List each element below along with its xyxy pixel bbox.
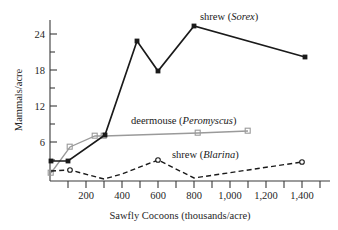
series-label-sorex-scientific: Sorex: [231, 11, 255, 22]
series-label-peromyscus-close: ): [233, 115, 237, 127]
series-blarina: [51, 158, 304, 179]
series-label-sorex-common: shrew (: [200, 11, 232, 23]
chart-figure: 24 18 12 6 Mammals/acre 200: [0, 0, 338, 230]
x-tick-label-600: 600: [150, 190, 166, 201]
series-blarina-line: [51, 160, 302, 179]
data-point: [192, 24, 197, 29]
y-tick-label-24: 24: [35, 29, 46, 40]
series-label-blarina-common: shrew (: [172, 149, 204, 161]
series-label-blarina-close: ): [235, 149, 239, 161]
x-tick-label-1200: 1,200: [254, 190, 278, 201]
series-label-sorex-close: ): [255, 11, 259, 23]
data-point: [303, 55, 308, 60]
x-tick-label-1400: 1,400: [290, 190, 314, 201]
data-point: [49, 159, 54, 164]
y-tick-labels: 24 18 12 6: [35, 29, 46, 148]
x-tick-labels: 200 400 600 800 1,000 1,200 1,400: [78, 190, 314, 201]
y-ticks: [50, 34, 57, 160]
y-tick-label-6: 6: [40, 137, 45, 148]
x-tick-label-200: 200: [78, 190, 94, 201]
data-point: [103, 133, 108, 138]
series-label-peromyscus-scientific: Peromyscus: [182, 115, 233, 126]
data-point: [66, 159, 71, 164]
series-label-peromyscus: deermouse (Peromyscus): [131, 115, 237, 127]
x-ticks: [68, 181, 320, 188]
data-point: [68, 168, 73, 173]
data-point: [300, 160, 305, 165]
series-label-blarina-scientific: Blarina: [203, 149, 235, 160]
data-point: [156, 158, 161, 163]
x-axis-title: Sawfly Cocoons (thousands/acre): [109, 210, 251, 222]
x-tick-label-1000: 1,000: [218, 190, 242, 201]
series-sorex-line: [51, 26, 305, 161]
y-tick-label-12: 12: [35, 101, 46, 112]
data-point: [135, 39, 140, 44]
series-label-sorex: shrew (Sorex): [200, 11, 259, 23]
series-sorex: [49, 24, 308, 164]
y-axis-title: Mammals/acre: [13, 68, 24, 131]
series-label-peromyscus-common: deermouse (: [131, 115, 183, 127]
series-sorex-markers: [49, 24, 308, 164]
series-label-blarina: shrew (Blarina): [172, 149, 239, 161]
y-tick-label-18: 18: [35, 65, 46, 76]
x-tick-label-800: 800: [186, 190, 202, 201]
line-chart: 24 18 12 6 Mammals/acre 200: [0, 0, 338, 230]
x-tick-label-400: 400: [114, 190, 130, 201]
data-point: [156, 69, 161, 74]
